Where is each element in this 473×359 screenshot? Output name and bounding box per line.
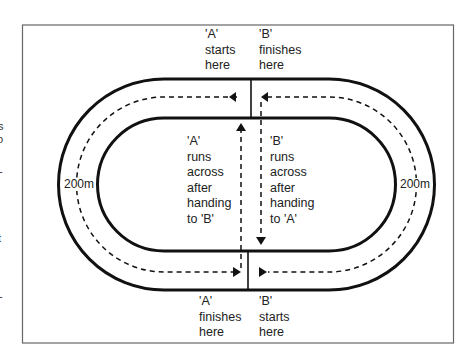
arrow-up-icon: [236, 123, 246, 131]
label-b-runs-across: 'B' runs across after handing to 'A': [270, 134, 315, 227]
label-line: here: [259, 325, 290, 341]
label-a-runs-across: 'A' runs across after handing to 'B': [187, 134, 232, 227]
left-margin-fragment: t: [0, 232, 1, 245]
label-line: handing: [270, 196, 315, 212]
left-margin-fragment: -: [0, 165, 3, 178]
outer-track-line: [59, 79, 435, 290]
label-line: handing: [187, 196, 232, 212]
label-line: across: [187, 165, 232, 181]
label-line: 'B': [270, 134, 315, 150]
label-line: starts: [259, 310, 290, 326]
inner-track-line: [98, 118, 396, 251]
left-margin-fragment: o: [0, 133, 3, 146]
label-line: after: [270, 181, 315, 197]
label-line: finishes: [259, 43, 301, 59]
right-distance-label: 200m: [399, 178, 431, 191]
arrow-left-icon: [261, 92, 268, 102]
label-a-starts-here: 'A' starts here: [205, 27, 236, 74]
label-line: runs: [187, 150, 232, 166]
arrow-right-icon: [259, 267, 267, 277]
left-margin-fragment: -: [0, 290, 3, 303]
label-line: 'A': [199, 294, 241, 310]
label-line: to 'A': [270, 212, 315, 228]
left-distance-label: 200m: [63, 178, 95, 191]
label-a-finishes-here: 'A' finishes here: [199, 294, 241, 341]
label-line: 'B': [259, 294, 290, 310]
label-line: to 'B': [187, 212, 232, 228]
arrow-right-icon: [233, 267, 241, 277]
label-line: runs: [270, 150, 315, 166]
label-b-finishes-here: 'B' finishes here: [259, 27, 301, 74]
label-line: here: [199, 325, 241, 341]
label-line: 'A': [187, 134, 232, 150]
label-line: here: [205, 58, 236, 74]
label-line: finishes: [199, 310, 241, 326]
left-margin-fragment: s: [0, 120, 4, 133]
label-b-starts-here: 'B' starts here: [259, 294, 290, 341]
arrow-left-icon: [229, 92, 236, 102]
label-line: starts: [205, 43, 236, 59]
arrow-down-icon: [256, 237, 266, 245]
label-line: across: [270, 165, 315, 181]
label-line: here: [259, 58, 301, 74]
label-line: 'A': [205, 27, 236, 43]
label-line: 'B': [259, 27, 301, 43]
label-line: after: [187, 181, 232, 197]
